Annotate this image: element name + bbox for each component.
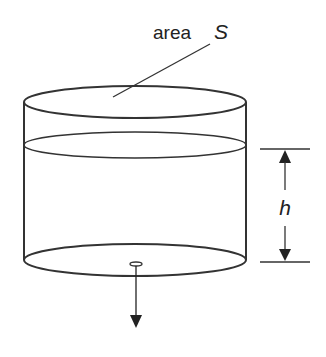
drain-hole (130, 262, 142, 266)
base-ellipse (24, 244, 246, 276)
up-arrowhead-icon (279, 150, 291, 163)
water-surface-ellipse (24, 132, 246, 158)
top-rim-ellipse (24, 86, 246, 118)
down-arrowhead-icon (279, 249, 291, 261)
area-label: area (153, 22, 191, 43)
area-symbol: S (214, 20, 228, 43)
tank-diagram: area S h (0, 0, 326, 357)
height-label: h (279, 196, 291, 219)
